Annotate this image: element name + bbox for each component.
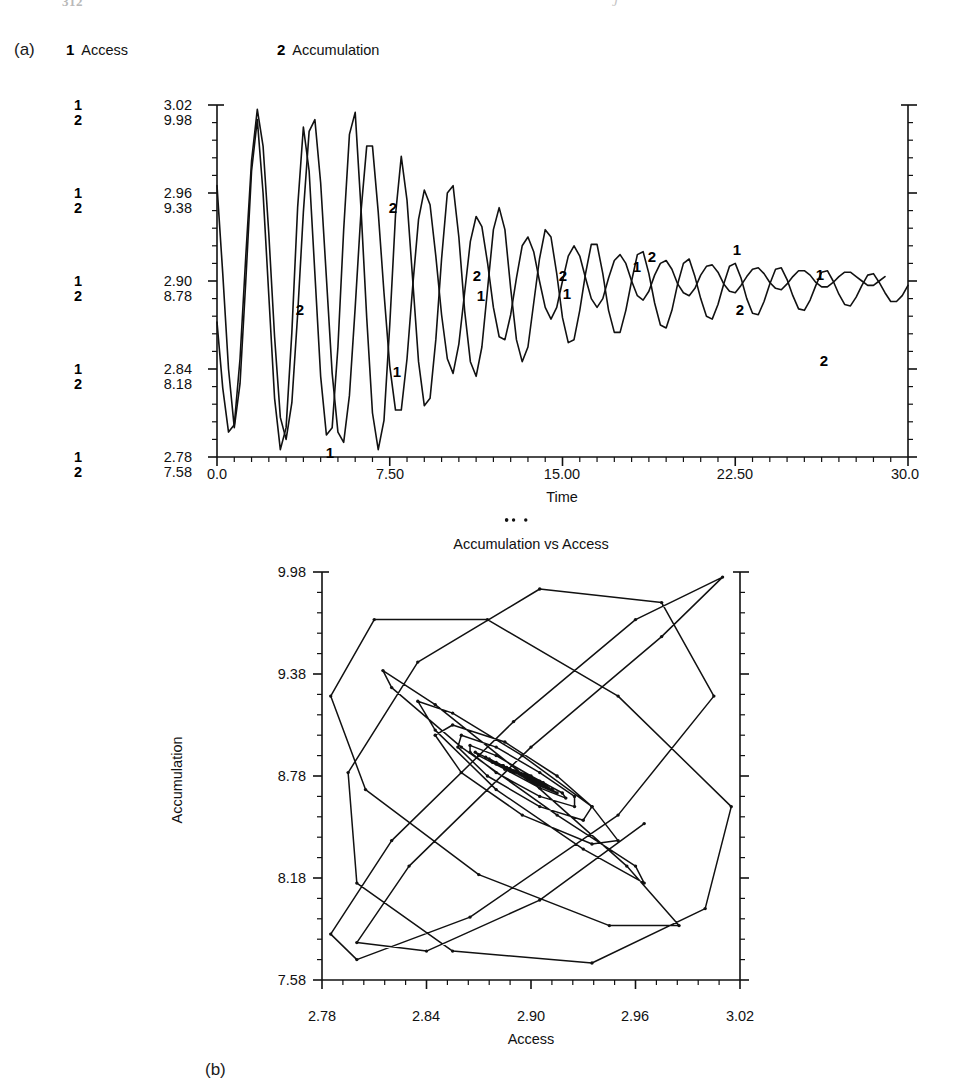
inline-series-tag-3: 1 — [393, 363, 401, 380]
vertex-marker — [477, 873, 480, 876]
vertex-marker — [494, 745, 497, 748]
vertex-marker — [494, 762, 497, 765]
vertex-marker — [494, 788, 497, 791]
vertex-marker — [507, 768, 510, 771]
vertex-marker — [373, 618, 376, 621]
vertex-marker — [460, 745, 463, 748]
vertex-marker — [460, 771, 463, 774]
vertex-marker — [456, 745, 459, 748]
vertex-marker — [573, 795, 576, 798]
inline-series-tag-6: 2 — [559, 267, 567, 284]
vertex-marker — [529, 745, 532, 748]
vertex-marker — [616, 694, 619, 697]
trajectory-path — [331, 577, 732, 963]
vertex-marker — [608, 924, 611, 927]
vertex-marker — [468, 751, 471, 754]
inline-series-tag-8: 1 — [633, 258, 641, 275]
vertex-marker — [538, 898, 541, 901]
vertex-marker — [434, 728, 437, 731]
vertex-marker — [538, 795, 541, 798]
vertex-marker — [434, 734, 437, 737]
inline-series-tag-2: 2 — [389, 199, 397, 216]
inline-series-tag-12: 1 — [816, 266, 824, 283]
vertex-marker — [407, 864, 410, 867]
panel-b-x-axis-title: Access — [508, 1031, 555, 1047]
vertex-marker — [625, 864, 628, 867]
vertex-marker — [643, 881, 646, 884]
vertex-marker — [555, 774, 558, 777]
panel-b: (b) Accumulation vs Access 9.98 9.38 8.7… — [0, 520, 960, 1046]
vertex-marker — [489, 759, 492, 762]
vertex-marker — [468, 744, 471, 747]
vertex-marker — [524, 774, 527, 777]
x-tick-15.00: 15.00 — [544, 466, 580, 482]
x-tick-0: 0.0 — [207, 466, 227, 482]
vertex-marker — [503, 740, 506, 743]
vertex-marker — [573, 805, 576, 808]
vertex-marker — [616, 813, 619, 816]
vertex-marker — [512, 720, 515, 723]
vertex-marker — [521, 813, 524, 816]
vertex-marker — [590, 805, 593, 808]
vertex-marker — [541, 781, 544, 784]
vertex-marker — [484, 756, 487, 759]
vertex-marker — [677, 924, 680, 927]
vertex-marker — [390, 839, 393, 842]
vertex-marker — [555, 813, 558, 816]
x-tick-2.84: 2.84 — [412, 1008, 440, 1024]
panel-a: (a) 1 Access 2 Accumulation 12 12 12 12 … — [0, 0, 960, 520]
vertex-marker — [355, 881, 358, 884]
vertex-marker — [538, 771, 541, 774]
vertex-marker — [474, 751, 477, 754]
vertex-marker — [390, 686, 393, 689]
x-tick-2.96: 2.96 — [621, 1008, 649, 1024]
vertex-marker — [451, 711, 454, 714]
panel-a-inline-series-tags: 21212121121212 — [296, 199, 828, 461]
vertex-marker — [582, 847, 585, 850]
inline-series-tag-5: 1 — [477, 287, 485, 304]
vertex-marker — [528, 774, 531, 777]
vertex-marker — [505, 518, 508, 521]
inline-series-tag-13: 2 — [820, 352, 828, 369]
inline-series-tag-0: 2 — [296, 301, 304, 318]
vertex-marker — [660, 601, 663, 604]
vertex-marker — [616, 839, 619, 842]
vertex-marker — [460, 734, 463, 737]
inline-series-tag-9: 2 — [648, 248, 656, 265]
panel-b-tag: (b) — [205, 1060, 226, 1080]
vertex-marker — [561, 791, 564, 794]
inline-series-tag-1: 1 — [326, 444, 334, 461]
vertex-marker — [486, 618, 489, 621]
vertex-marker — [538, 786, 541, 789]
vertex-marker — [346, 771, 349, 774]
vertex-marker — [634, 618, 637, 621]
vertex-marker — [364, 788, 367, 791]
vertex-marker — [381, 669, 384, 672]
vertex-marker — [512, 518, 515, 521]
vertex-marker — [521, 754, 524, 757]
vertex-marker — [730, 805, 733, 808]
vertex-marker — [477, 754, 480, 757]
vertex-marker — [329, 932, 332, 935]
vertex-marker — [582, 819, 585, 822]
panel-b-plot — [0, 520, 960, 1046]
vertex-marker — [425, 949, 428, 952]
vertex-marker — [538, 587, 541, 590]
vertex-marker — [555, 791, 558, 794]
vertex-marker — [660, 635, 663, 638]
vertex-marker — [416, 700, 419, 703]
x-tick-3.02: 3.02 — [726, 1008, 754, 1024]
vertex-marker — [355, 958, 358, 961]
x-tick-22.50: 22.50 — [717, 466, 753, 482]
vertex-marker — [515, 769, 518, 772]
vertex-marker — [494, 771, 497, 774]
x-tick-30.0: 30.0 — [891, 466, 919, 482]
vertex-marker — [510, 769, 513, 772]
vertex-marker — [550, 788, 553, 791]
panel-b-trajectory — [331, 577, 732, 963]
vertex-marker — [500, 764, 503, 767]
vertex-marker — [535, 783, 538, 786]
inline-series-tag-4: 2 — [473, 267, 481, 284]
panel-a-x-axis-title: Time — [546, 489, 578, 505]
